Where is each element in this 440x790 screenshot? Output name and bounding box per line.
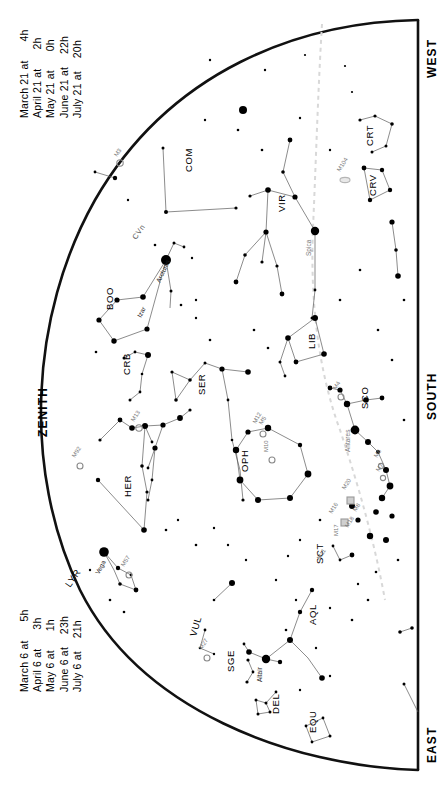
label-star-altair: Altair [256,666,263,682]
label-messier-m3: M3 [113,147,123,158]
label-star-antares: Antares [344,429,351,452]
label-constellation-boo: BOO [104,287,115,310]
date-legend-date: March 21 at [18,60,31,118]
label-constellation-aql: AQL [307,604,318,625]
label-messier-m16: M16 [328,501,340,515]
date-legend-date: April 21 at [31,69,44,118]
date-legend-top: March 21 at4hApril 21 at2hMay 21 at0hJun… [18,29,84,118]
date-legend-date: May 21 at [44,70,57,118]
date-legend-row: March 21 at4h [18,29,31,118]
date-legend-time: 5h [18,609,31,635]
label-constellation-vir: VIR [276,194,287,212]
label-messier-m6: M6 [373,448,383,459]
date-legend-date: March 6 at [18,640,31,692]
date-legend-date: July 6 at [71,651,84,692]
date-legend-time: 3h [31,618,44,644]
label-star-spica: Spica [305,239,313,256]
label-constellation-crv: CRV [367,174,378,196]
label-messier-m18: M18 [344,515,356,529]
label-constellation-vul: VUL [187,615,203,638]
label-constellation-equ: EQU [307,711,318,733]
date-legend-row: May 21 at0h [44,29,57,118]
date-legend-row: March 6 at5h [18,609,31,692]
label-constellation-crb: CRB [121,353,132,375]
label-constellation-cvn: CVn [130,223,147,242]
cardinal-label-east: EAST [425,727,439,763]
date-legend-time: 21h [71,620,84,646]
date-legend-date: June 6 at [58,647,71,692]
label-star-vega: Vega [94,559,108,576]
label-messier-m13: M13 [130,409,142,423]
date-legend-time: 23h [58,616,71,642]
date-legend-time: 20h [71,40,84,66]
date-legend-time: 0h [44,39,57,65]
date-legend-row: July 21 at20h [71,29,84,118]
cardinal-label-west: WEST [425,39,439,78]
date-legend-row: June 6 at23h [58,609,71,692]
label-messier-m57: M57 [120,554,132,568]
label-messier-m10: M10 [263,440,269,452]
label-star-izar: Izar [136,305,148,319]
date-legend-date: July 21 at [71,71,84,118]
date-legend-row: June 21 at22h [58,29,71,118]
date-legend-time: 22h [58,36,71,62]
date-legend-date: April 6 at [31,649,44,692]
label-messier-m92: M92 [71,445,83,459]
label-constellation-ser: SER [196,374,207,395]
label-constellation-sge: SGE [225,650,236,672]
date-legend-date: May 6 at [44,650,57,692]
date-legend-row: April 6 at3h [31,609,44,692]
date-legend-row: April 21 at2h [31,29,44,118]
date-legend-row: July 6 at21h [71,609,84,692]
date-legend-time: 1h [44,619,57,645]
label-constellation-oph: OPH [239,450,250,472]
date-legend-time: 2h [31,38,44,64]
date-legend-time: 4h [18,29,31,55]
label-constellation-com: COM [183,148,194,172]
label-constellation-lib: LIB [306,333,317,349]
cardinal-label-zenith: ZENITH [36,387,50,437]
label-constellation-sco: SCO [359,387,370,409]
date-legend-date: June 21 at [58,67,71,118]
date-legend-row: May 6 at1h [44,609,57,692]
label-constellation-lyr: LYR [63,567,83,589]
cardinal-label-south: SOUTH [425,373,439,421]
label-messier-m27: M27 [198,637,210,651]
label-constellation-her: HER [122,475,133,497]
label-constellation-crt: CRT [364,125,375,146]
label-messier-m104: M104 [336,156,349,172]
label-messier-m17: M17 [333,524,339,536]
constellation-lines [95,116,418,742]
label-constellation-del: DEL [270,694,281,714]
label-messier-m20: M20 [341,477,353,491]
date-legend-bottom: March 6 at5hApril 6 at3hMay 6 at1hJune 6… [18,609,84,692]
